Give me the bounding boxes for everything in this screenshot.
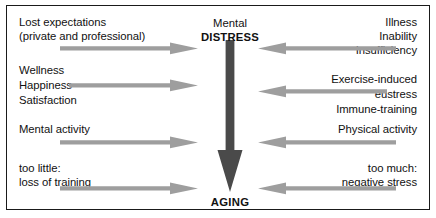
- central-down-arrow: [212, 40, 248, 192]
- arrow-left-3: [258, 136, 396, 149]
- arrow-right-1: [60, 42, 198, 55]
- left-group-2-line-2: Happiness: [19, 78, 72, 92]
- arrow-left-2: [258, 85, 387, 98]
- left-group-4-line-1: too little:: [19, 161, 61, 175]
- arrow-right-4: [60, 182, 198, 195]
- left-group-3-line-1: Mental activity: [19, 122, 90, 136]
- arrow-right-2: [69, 79, 198, 92]
- center-top-label: Mental DISTRESS: [190, 16, 270, 44]
- left-group-2-line-3: Satisfaction: [19, 93, 77, 107]
- arrow-right-3: [60, 136, 198, 149]
- left-group-2-line-1: Wellness: [19, 63, 64, 77]
- center-bottom-label: AGING: [190, 196, 270, 208]
- center-top-label-line-1: Mental: [190, 16, 270, 30]
- arrow-left-1: [258, 42, 396, 55]
- arrow-left-4: [258, 182, 396, 195]
- center-top-label-line-2: DISTRESS: [190, 30, 270, 44]
- diagram-frame: Lost expectations (private and professio…: [6, 5, 430, 210]
- left-group-1-line-1: Lost expectations: [19, 15, 106, 29]
